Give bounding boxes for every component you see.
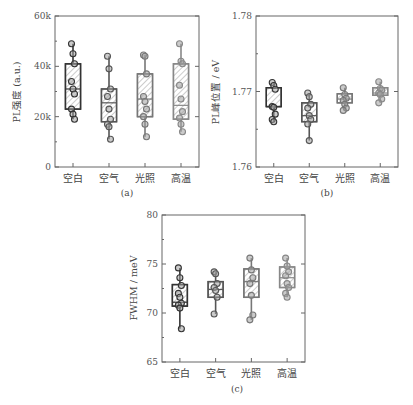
x-category-label: 光照	[135, 172, 155, 184]
data-point	[106, 124, 112, 130]
box-空白	[65, 41, 80, 123]
panel-c: FWHM / meV 65707580 空白空气光照高温 (c)	[128, 210, 305, 394]
y-tick-label: 65	[147, 357, 159, 367]
x-category-label: 空白	[264, 172, 284, 184]
data-point	[376, 79, 382, 85]
y-tick-label: 1.77	[232, 87, 252, 97]
data-point	[248, 267, 254, 273]
data-point	[247, 281, 253, 287]
x-categories-c: 空白空气光照高温	[170, 358, 297, 379]
x-category-label: 光照	[335, 172, 355, 184]
x-category-label: 高温	[370, 172, 390, 184]
data-point	[305, 105, 311, 111]
panel-a: PL强度 (a.u.) 020k40k60k 空白空气光照高温 (a)	[11, 11, 199, 198]
data-point	[214, 294, 220, 300]
data-point	[72, 61, 78, 67]
box-光照	[244, 255, 259, 323]
panel-label-c: (c)	[231, 384, 243, 394]
data-point	[376, 100, 382, 106]
x-categories-a: 空白空气光照高温	[63, 163, 191, 184]
data-point	[105, 53, 111, 59]
data-point	[284, 263, 290, 269]
data-point	[106, 106, 112, 112]
y-tick-label: 80	[147, 210, 159, 220]
data-point	[283, 255, 289, 261]
y-tick-label: 40k	[34, 61, 51, 71]
data-point	[177, 82, 183, 88]
box-空白	[266, 79, 281, 124]
data-point	[144, 71, 150, 77]
data-point	[108, 86, 114, 92]
y-tick-label: 75	[147, 259, 159, 269]
data-point	[142, 99, 148, 105]
data-point	[180, 129, 186, 135]
panel-b: PL峰位置 / eV 1.761.771.78 空白空气光照高温 (b)	[210, 11, 398, 198]
box-高温	[373, 79, 388, 106]
x-category-label: 高温	[171, 172, 191, 184]
data-point	[247, 317, 253, 323]
data-point	[213, 287, 219, 293]
data-point	[175, 265, 181, 271]
data-point	[70, 51, 76, 57]
data-point	[177, 275, 183, 281]
data-point	[69, 41, 75, 47]
data-point	[105, 94, 111, 100]
data-point	[142, 53, 148, 59]
boxes-a	[65, 41, 188, 143]
y-tick-label: 60k	[34, 11, 51, 21]
box-空气	[101, 53, 116, 142]
data-point	[271, 119, 277, 125]
data-point	[108, 136, 114, 142]
x-categories-b: 空白空气光照高温	[264, 163, 391, 184]
data-point	[178, 326, 184, 332]
x-category-label: 空气	[299, 172, 319, 184]
x-category-label: 空气	[206, 367, 226, 379]
x-category-label: 空白	[63, 172, 83, 184]
box-空气	[208, 269, 223, 317]
y-axis-label-b: PL峰位置 / eV	[210, 60, 221, 125]
data-point	[340, 85, 346, 91]
figure: PL强度 (a.u.) 020k40k60k 空白空气光照高温 (a) PL峰位…	[0, 0, 413, 405]
box-高温	[280, 255, 295, 300]
y-tick-label: 1.78	[232, 11, 252, 21]
data-point	[142, 121, 148, 127]
data-point	[144, 106, 150, 112]
data-point	[213, 271, 219, 277]
data-point	[177, 294, 183, 300]
x-category-label: 空白	[170, 367, 190, 379]
y-axis-label-c: FWHM / meV	[128, 255, 139, 320]
data-point	[72, 116, 78, 122]
data-point	[248, 292, 254, 298]
data-point	[178, 96, 184, 102]
data-point	[340, 107, 346, 113]
data-point	[141, 114, 147, 120]
data-point	[211, 311, 217, 317]
y-tick-label: 70	[147, 308, 159, 318]
data-point	[69, 78, 75, 84]
boxes-c	[172, 255, 294, 332]
data-point	[271, 104, 277, 110]
data-point	[178, 121, 184, 127]
data-point	[72, 91, 78, 97]
data-point	[250, 275, 256, 281]
data-point	[286, 285, 292, 291]
x-category-label: 光照	[241, 367, 261, 379]
y-ticks-c: 65707580	[147, 210, 305, 367]
data-point	[106, 66, 112, 72]
data-point	[178, 283, 184, 289]
box-空白	[172, 265, 187, 332]
data-point	[177, 305, 183, 311]
data-point	[177, 41, 183, 47]
data-point	[283, 273, 289, 279]
y-axis-label-a: PL强度 (a.u.)	[11, 62, 22, 123]
box-空气	[302, 90, 317, 144]
data-point	[306, 94, 312, 100]
data-point	[247, 255, 253, 261]
data-point	[177, 115, 183, 121]
data-point	[180, 109, 186, 115]
x-category-label: 高温	[277, 367, 297, 379]
y-tick-label: 1.76	[232, 162, 252, 172]
panel-label-b: (b)	[321, 188, 334, 198]
box-光照	[137, 52, 152, 140]
data-point	[306, 138, 312, 144]
